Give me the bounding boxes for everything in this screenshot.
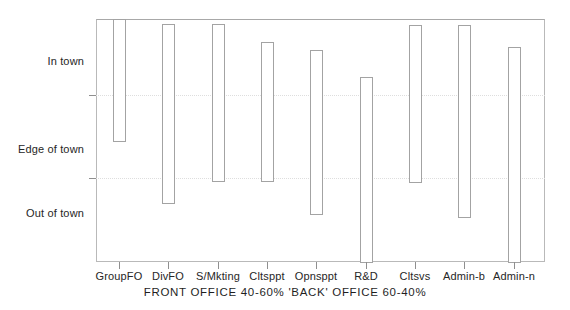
bar-cltsppt[interactable] <box>261 42 274 182</box>
x-axis-caption: FRONT OFFICE 40-60% 'BACK' OFFICE 60-40% <box>0 286 570 299</box>
bar-cltsvs[interactable] <box>409 25 422 183</box>
y-tick-1 <box>89 95 96 96</box>
bar-opnsppt[interactable] <box>310 50 323 215</box>
bar-rd[interactable] <box>360 77 373 263</box>
x-tick-0 <box>119 262 120 269</box>
bar-smkting[interactable] <box>212 24 225 182</box>
y-axis-label-out-of-town: Out of town <box>0 207 84 219</box>
chart-container: In town Edge of town Out of town GroupFO… <box>0 0 570 310</box>
x-tick-3 <box>267 262 268 269</box>
bar-divfo[interactable] <box>162 24 175 204</box>
y-axis-label-edge-of-town: Edge of town <box>0 143 84 155</box>
x-tick-6 <box>415 262 416 269</box>
bar-admin-n[interactable] <box>508 47 521 263</box>
x-tick-4 <box>316 262 317 269</box>
x-tick-2 <box>218 262 219 269</box>
bar-groupfo[interactable] <box>113 19 126 142</box>
x-axis-label-admin-n: Admin-n <box>474 270 554 282</box>
bar-admin-b[interactable] <box>458 25 471 218</box>
x-tick-1 <box>168 262 169 269</box>
x-tick-8 <box>514 262 515 269</box>
x-tick-5 <box>366 262 367 269</box>
x-tick-7 <box>464 262 465 269</box>
y-tick-2 <box>89 178 96 179</box>
y-axis-label-in-town: In town <box>0 55 84 67</box>
